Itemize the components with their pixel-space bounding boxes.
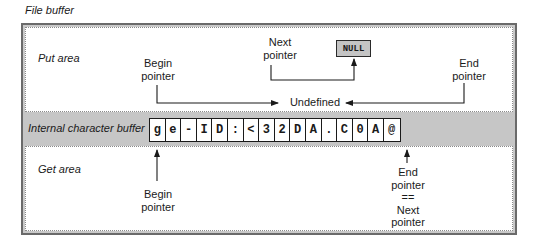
buffer-cell: < [244, 119, 260, 141]
buffer-cell: A [368, 119, 384, 141]
label-line: Next [255, 36, 305, 49]
label-line: Next [383, 204, 433, 217]
put-next-pointer-label: Next pointer [255, 36, 305, 62]
buffer-cell: 3 [259, 119, 275, 141]
label-line: == [383, 191, 433, 204]
buffer-cell: - [181, 119, 197, 141]
get-begin-pointer-label: Begin pointer [133, 188, 183, 214]
label-line: pointer [255, 49, 305, 62]
label-line: pointer [133, 201, 183, 214]
buffer-cell: e [166, 119, 182, 141]
buffer-cell: D [212, 119, 228, 141]
buffer-cell: D [290, 119, 306, 141]
buffer-cell: g [150, 119, 166, 141]
put-end-pointer-label: End pointer [444, 57, 494, 83]
buffer-cell: . [322, 119, 338, 141]
get-area-label: Get area [38, 163, 81, 175]
label-line: Begin [133, 57, 183, 70]
buffer-cell: @ [384, 119, 400, 141]
get-end-next-pointer-label: End pointer == Next pointer [383, 166, 433, 229]
diagram-title: File buffer [25, 4, 74, 16]
label-line: pointer [444, 70, 494, 83]
character-cells: g e - I D : < 3 2 D A . C 0 A @ [149, 118, 401, 142]
get-area [25, 146, 513, 231]
put-begin-pointer-label: Begin pointer [133, 57, 183, 83]
undefined-label: Undefined [283, 96, 347, 109]
buffer-cell: 2 [275, 119, 291, 141]
buffer-cell: 0 [353, 119, 369, 141]
buffer-cell: : [228, 119, 244, 141]
label-line: Begin [133, 188, 183, 201]
label-line: pointer [383, 179, 433, 192]
label-line: pointer [383, 216, 433, 229]
label-line: pointer [133, 70, 183, 83]
internal-buffer-label: Internal character buffer [28, 122, 145, 134]
label-line: End [383, 166, 433, 179]
put-area-label: Put area [38, 52, 80, 64]
buffer-cell: C [337, 119, 353, 141]
label-line: End [444, 57, 494, 70]
buffer-cell: I [197, 119, 213, 141]
buffer-cell: A [306, 119, 322, 141]
null-box: NULL [336, 40, 371, 57]
